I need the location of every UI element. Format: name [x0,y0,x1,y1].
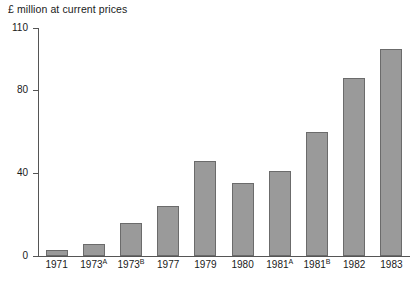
x-axis-labels: 19711973A1973B1977197919801981A1981B1982… [38,259,410,279]
bar-chart: £ million at current prices 04080110 197… [0,0,414,292]
x-axis-tick-label: 1980 [224,259,261,271]
bars-layer [38,28,410,256]
x-axis-tick-label: 1971 [38,259,75,271]
y-axis-tick-label: 40 [0,168,28,178]
bar [194,161,216,256]
x-axis-tick-label: 1973B [112,259,149,271]
bar [46,250,68,256]
chart-title: £ million at current prices [8,3,127,15]
y-axis-tick-label: 0 [0,251,28,261]
bar [120,223,142,256]
y-axis-tick-label: 80 [0,85,28,95]
x-axis-tick-label: 1979 [187,259,224,271]
bar [83,244,105,256]
x-axis-tick-label: 1981B [298,259,335,271]
bar [343,78,365,256]
x-axis-tick-label: 1973A [75,259,112,271]
bar [157,206,179,256]
x-axis-tick-label: 1982 [336,259,373,271]
x-axis-tick-label: 1977 [150,259,187,271]
x-axis-tick-label: 1981A [261,259,298,271]
y-axis-tick [33,256,39,257]
bar [380,49,402,256]
bar [306,132,328,256]
x-axis-tick-label: 1983 [373,259,410,271]
bar [269,171,291,256]
bar [232,183,254,256]
y-axis-tick-label: 110 [0,23,28,33]
x-axis-line [38,256,410,257]
